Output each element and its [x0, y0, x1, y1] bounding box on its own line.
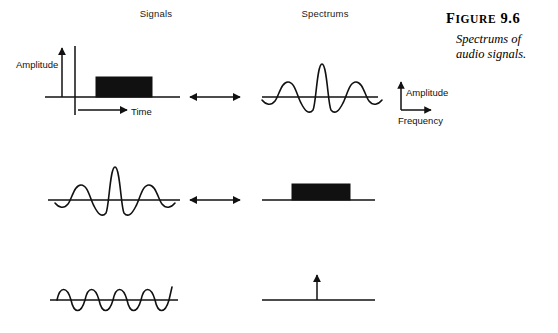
row1-left-plot — [45, 46, 180, 115]
sinc-waveform-row2 — [55, 167, 175, 215]
rectangular-pulse-shape-row2 — [292, 184, 350, 200]
row3-left-plot — [50, 287, 178, 311]
sinc-waveform-row1 — [262, 64, 382, 112]
rectangular-pulse-shape — [96, 77, 152, 97]
figure-drawing-layer — [0, 0, 558, 333]
row3-right-plot — [262, 275, 375, 300]
sine-waveform-row3 — [57, 287, 172, 311]
frequency-axis-legend — [401, 82, 431, 110]
row1-right-plot — [262, 64, 382, 112]
figure-container: Signals Spectrums Amplitude Time Amplitu… — [0, 0, 558, 333]
row2-right-plot — [262, 184, 375, 200]
row2-left-plot — [48, 167, 180, 215]
